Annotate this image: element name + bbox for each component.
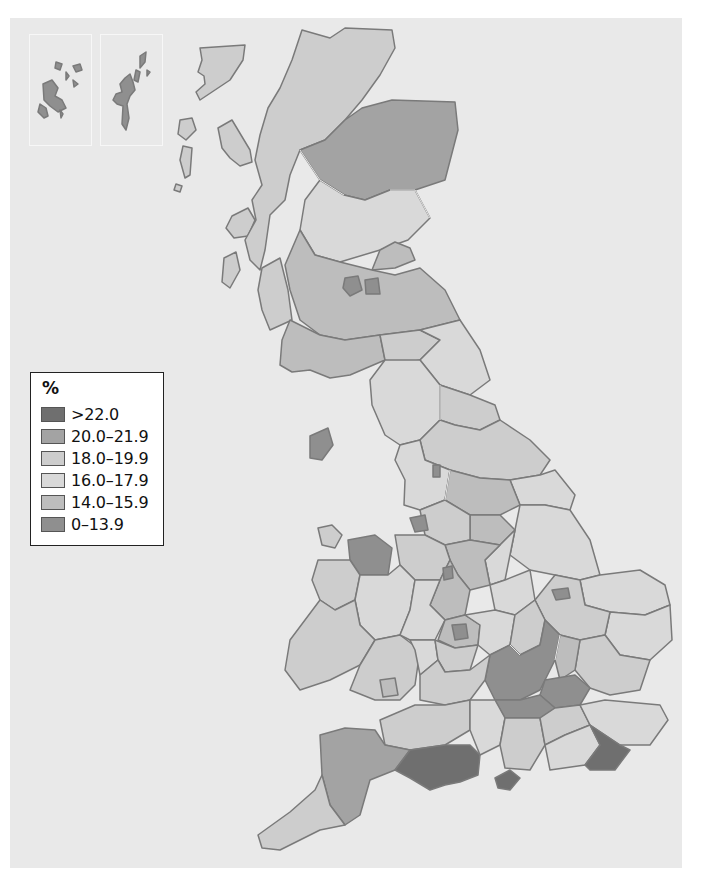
legend-swatch — [41, 495, 65, 510]
legend-swatch — [41, 451, 65, 466]
region-isle-of-wight — [495, 770, 520, 790]
legend-title: % — [42, 378, 59, 398]
region-hampshire — [500, 718, 545, 770]
legend-swatch — [41, 473, 65, 488]
legend-label: 18.0–19.9 — [71, 449, 148, 468]
region-lincolnshire — [510, 505, 600, 580]
legend-label: 14.0–15.9 — [71, 493, 148, 512]
legend-label: 16.0–17.9 — [71, 471, 148, 490]
legend-swatch — [41, 517, 65, 532]
region-stoke — [443, 566, 453, 580]
region-birmingham — [452, 624, 468, 640]
legend-swatch — [41, 429, 65, 444]
orkney-islands — [38, 62, 82, 118]
region-peterborough — [552, 588, 570, 600]
legend-item: 18.0–19.9 — [41, 449, 148, 467]
western-isles — [174, 45, 245, 192]
inner-hebrides — [218, 120, 255, 288]
region-blackburn — [433, 465, 440, 477]
legend-swatch — [41, 407, 65, 422]
legend-label: 20.0–21.9 — [71, 427, 148, 446]
region-edinburgh — [365, 278, 380, 294]
legend: % >22.0 20.0–21.9 18.0–19.9 16.0–17.9 14… — [30, 372, 164, 546]
legend-label: 0–13.9 — [71, 515, 124, 534]
shetland-islands — [113, 52, 150, 130]
region-anglesey — [318, 525, 342, 548]
region-isle-of-man — [310, 428, 333, 460]
region-cardiff — [380, 678, 398, 697]
region-dorset — [395, 745, 480, 790]
legend-item: 14.0–15.9 — [41, 493, 148, 511]
region-somerset — [380, 700, 470, 750]
legend-item: >22.0 — [41, 405, 119, 423]
legend-item: 20.0–21.9 — [41, 427, 148, 445]
legend-label: >22.0 — [71, 405, 119, 424]
region-merseyside — [410, 515, 428, 532]
legend-item: 0–13.9 — [41, 515, 124, 533]
legend-item: 16.0–17.9 — [41, 471, 148, 489]
